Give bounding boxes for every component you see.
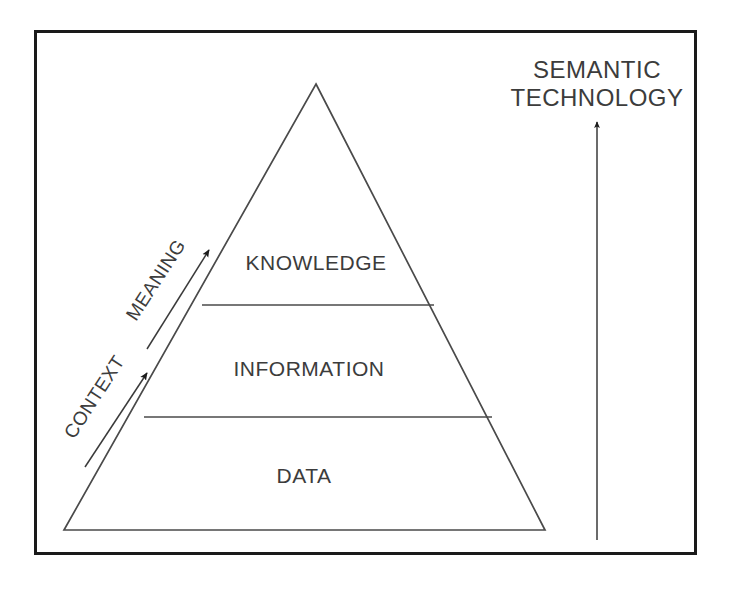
tier-label-data: DATA bbox=[277, 464, 332, 487]
diagram-canvas: KNOWLEDGE INFORMATION DATA CONTEXT MEANI… bbox=[0, 0, 730, 591]
semantic-technology-label-line1: SEMANTIC bbox=[533, 56, 661, 83]
dikw-pyramid-diagram: KNOWLEDGE INFORMATION DATA CONTEXT MEANI… bbox=[0, 0, 730, 591]
tier-label-information: INFORMATION bbox=[234, 357, 385, 380]
tier-label-knowledge: KNOWLEDGE bbox=[245, 251, 386, 274]
semantic-technology-label-line2: TECHNOLOGY bbox=[510, 84, 683, 111]
